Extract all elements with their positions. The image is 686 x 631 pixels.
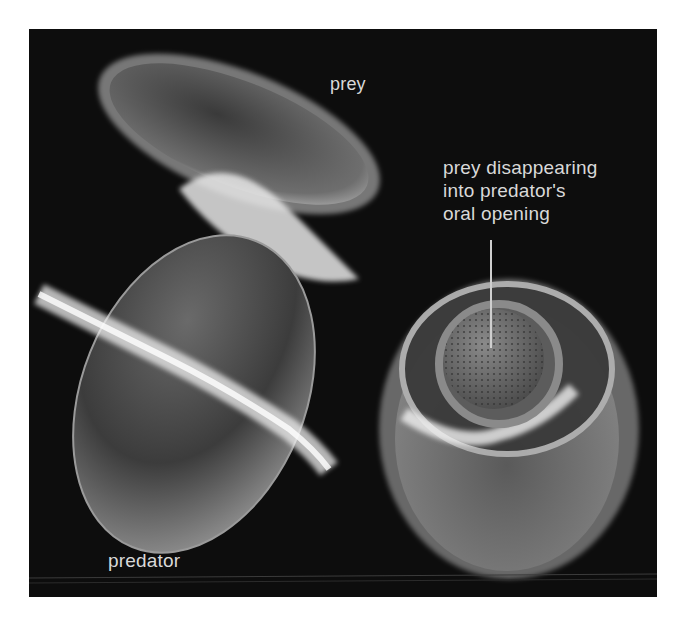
oral-opening-label-line-2: into predator's [443,179,597,202]
organisms-illustration [29,29,657,597]
micrograph-photo: prey prey disappearing into predator's o… [29,29,657,597]
prey-label: prey [330,73,366,96]
oral-opening-label: prey disappearing into predator's oral o… [443,156,597,225]
oral-opening-leader-line [490,240,492,348]
predator-label: predator [108,549,180,572]
engulfing-predator-organism [379,279,639,579]
oral-opening-label-line-3: oral opening [443,202,597,225]
oral-opening-label-line-1: prey disappearing [443,156,597,179]
